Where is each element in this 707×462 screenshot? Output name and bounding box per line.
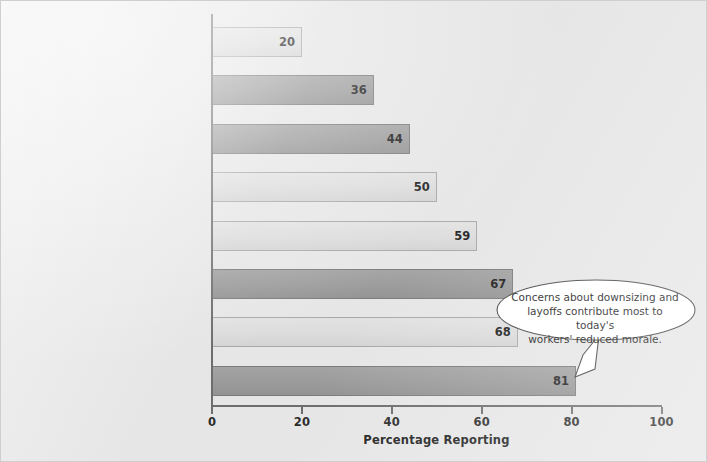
plot-area: Increased competition20Mergers or acquis… bbox=[1, 1, 707, 462]
callout-text-line: Concerns about downsizing and bbox=[511, 290, 679, 304]
bar: 59 bbox=[212, 221, 477, 251]
x-tick bbox=[661, 407, 663, 414]
bar: 50 bbox=[212, 172, 437, 202]
bar: 20 bbox=[212, 27, 302, 57]
y-axis-line bbox=[211, 14, 213, 406]
bar-value-label: 50 bbox=[414, 180, 430, 194]
bar: 67 bbox=[212, 269, 513, 299]
bar: 44 bbox=[212, 124, 410, 154]
bar-value-label: 36 bbox=[351, 83, 367, 97]
x-tick-label: 60 bbox=[452, 415, 512, 429]
x-axis-title: Percentage Reporting bbox=[211, 433, 662, 447]
x-tick-label: 0 bbox=[182, 415, 242, 429]
x-tick bbox=[211, 407, 213, 414]
callout-text: Concerns about downsizing andlayoffs con… bbox=[511, 290, 679, 346]
x-tick-label: 40 bbox=[362, 415, 422, 429]
x-axis-line bbox=[211, 405, 662, 407]
bar-value-label: 59 bbox=[454, 229, 470, 243]
bar: 36 bbox=[212, 75, 374, 105]
x-tick-label: 80 bbox=[542, 415, 602, 429]
chart-figure: Increased competition20Mergers or acquis… bbox=[0, 0, 707, 462]
bar-value-label: 44 bbox=[387, 132, 403, 146]
x-tick bbox=[481, 407, 483, 414]
callout-text-line: layoffs contribute most to today's bbox=[511, 304, 679, 332]
bar-value-label: 20 bbox=[279, 35, 295, 49]
x-tick bbox=[301, 407, 303, 414]
x-tick bbox=[571, 407, 573, 414]
x-tick-label: 20 bbox=[272, 415, 332, 429]
bar: 68 bbox=[212, 317, 518, 347]
x-tick-label: 100 bbox=[632, 415, 692, 429]
x-tick bbox=[391, 407, 393, 414]
callout-text-line: workers' reduced morale. bbox=[511, 332, 679, 346]
annotation-callout: Concerns about downsizing andlayoffs con… bbox=[495, 279, 707, 389]
